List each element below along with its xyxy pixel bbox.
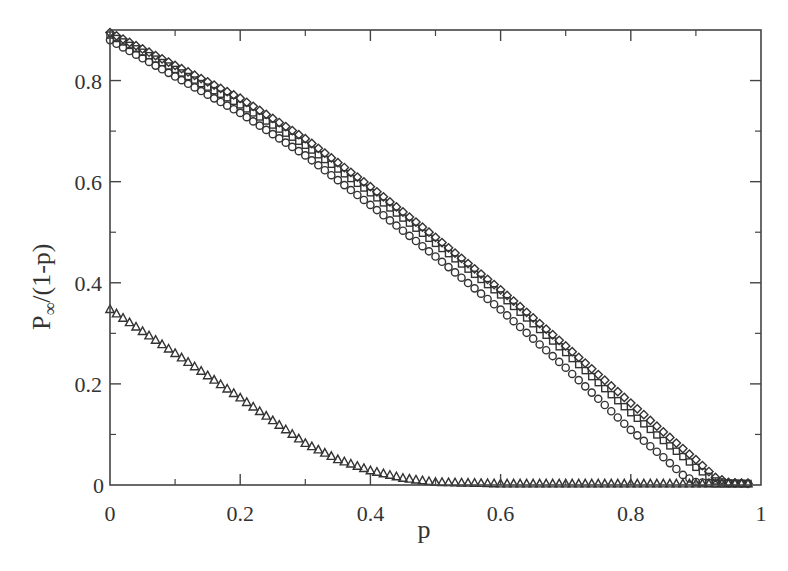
y-tick-label: 0.4 [75,271,103,296]
x-tick-label: 1 [756,501,767,526]
x-tick-label: 0.2 [226,501,254,526]
axis-tick-labels: 00.20.40.60.8100.20.40.60.8 [75,69,767,526]
series-squares [107,32,751,487]
x-tick-label: 0 [105,501,116,526]
chart-canvas: 00.20.40.60.8100.20.40.60.8 p P∞/(1-p) [0,0,788,571]
series-triangles [106,305,752,487]
x-tick-label: 0.8 [617,501,645,526]
y-tick-label: 0.2 [75,372,103,397]
y-tick-label: 0.6 [75,170,103,195]
x-tick-label: 0.6 [487,501,515,526]
series-diamonds [106,28,752,487]
y-tick-label: 0.8 [75,69,103,94]
series-circles [106,37,751,488]
x-axis-label: p [418,515,431,544]
x-tick-label: 0.4 [357,501,385,526]
plot-markers [106,28,752,487]
y-axis-label: P∞/(1-p) [27,243,60,330]
y-tick-label: 0 [93,473,104,498]
